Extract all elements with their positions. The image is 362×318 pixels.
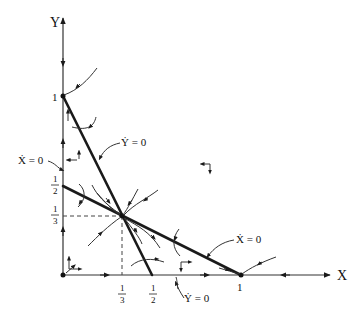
nullclines xyxy=(63,96,241,275)
svg-text:2: 2 xyxy=(53,186,58,196)
y-tick-third: 1 3 xyxy=(51,204,59,226)
y-dot-nullcline xyxy=(63,96,152,275)
x-tick-1: 1 xyxy=(237,281,243,293)
svg-text:1: 1 xyxy=(53,174,58,184)
svg-text:1: 1 xyxy=(151,283,156,293)
svg-text:1: 1 xyxy=(53,204,58,214)
x-tick-labels: 1 3 1 2 1 xyxy=(118,281,243,305)
label-ydot-zero-bottom: Ẏ = 0 xyxy=(184,292,210,304)
y-axis-label: Y xyxy=(50,15,60,30)
equilibrium-origin xyxy=(61,273,66,278)
x-dot-nullcline xyxy=(63,186,241,275)
axes: Y X xyxy=(50,15,347,283)
x-tick-half: 1 2 xyxy=(149,283,157,305)
label-ydot-zero-top: Ẏ = 0 xyxy=(121,136,147,148)
trajectories xyxy=(64,68,276,289)
phase-portrait-diagram: Y X 1 1 2 1 3 1 3 1 xyxy=(0,0,362,318)
svg-text:3: 3 xyxy=(120,295,125,305)
svg-text:3: 3 xyxy=(53,216,58,226)
equilibrium-guides xyxy=(63,216,122,275)
equilibrium-points xyxy=(61,94,244,278)
x-axis-label: X xyxy=(337,268,347,283)
x-tick-third: 1 3 xyxy=(118,283,126,305)
svg-text:1: 1 xyxy=(120,283,125,293)
label-xdot-zero-left: Ẋ = 0 xyxy=(18,154,44,166)
y-tick-labels: 1 1 2 1 3 xyxy=(51,91,59,226)
svg-text:2: 2 xyxy=(151,295,156,305)
y-tick-half: 1 2 xyxy=(51,174,59,196)
label-xdot-zero-right: Ẋ = 0 xyxy=(236,233,262,245)
y-tick-1: 1 xyxy=(52,91,58,103)
